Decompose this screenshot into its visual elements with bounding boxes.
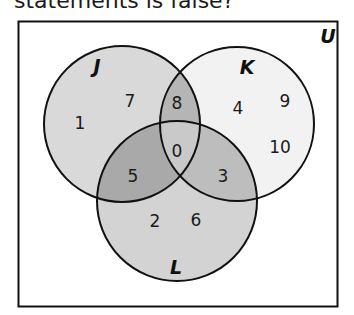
- element-j-and-l: 5: [128, 166, 139, 186]
- universe-label: U: [320, 25, 336, 47]
- element-j-and-k: 8: [172, 93, 183, 113]
- set-label-k: K: [240, 56, 256, 78]
- element-k-only: 9: [280, 91, 291, 111]
- element-k-and-l: 3: [218, 166, 229, 186]
- element-j-only: 7: [125, 91, 136, 111]
- element-l-only: 6: [191, 210, 202, 230]
- element-j-and-k-and-l: 0: [172, 141, 183, 161]
- venn-diagram: U J K L 7 1 4 9 10 2 6 8 5 3 0: [0, 0, 354, 315]
- element-k-only: 10: [269, 137, 291, 157]
- element-k-only: 4: [233, 98, 244, 118]
- set-label-l: L: [170, 256, 182, 278]
- element-l-only: 2: [150, 211, 161, 231]
- element-j-only: 1: [75, 113, 86, 133]
